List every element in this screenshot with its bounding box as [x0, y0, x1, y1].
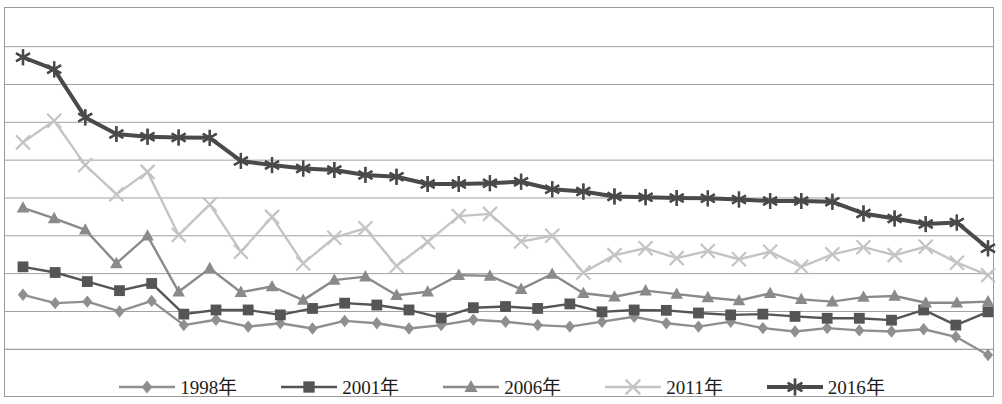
data-point-marker	[359, 270, 372, 281]
data-point-marker	[211, 305, 222, 316]
data-point-marker	[421, 235, 435, 249]
data-point-marker	[179, 319, 189, 331]
data-point-marker	[390, 259, 404, 273]
data-point-marker	[757, 309, 768, 320]
legend-marker-square-icon	[279, 376, 339, 398]
data-point-marker	[794, 260, 808, 274]
data-point-marker	[18, 261, 29, 272]
legend-item-2016年[interactable]: 2016年	[765, 374, 885, 400]
data-point-marker	[764, 287, 777, 298]
data-point-marker	[203, 197, 217, 211]
data-point-marker	[983, 306, 994, 317]
data-point-marker	[919, 240, 933, 254]
data-point-marker	[265, 210, 279, 224]
data-point-marker	[172, 285, 185, 296]
data-point-marker	[50, 267, 61, 278]
data-point-marker	[565, 320, 575, 332]
data-point-marker	[18, 289, 28, 301]
data-point-marker	[204, 262, 217, 273]
series-layer	[16, 49, 995, 361]
data-point-marker	[340, 315, 350, 327]
data-point-marker	[661, 305, 672, 316]
data-point-marker	[234, 245, 248, 259]
data-point-marker	[500, 301, 511, 312]
series-line	[23, 208, 988, 303]
data-point-marker	[546, 267, 559, 278]
data-point-marker	[266, 280, 279, 291]
data-point-marker	[951, 331, 961, 343]
legend-marker-asterisk-icon	[765, 376, 825, 398]
data-point-marker	[854, 313, 865, 324]
data-point-marker	[372, 317, 382, 329]
data-point-marker	[275, 309, 286, 320]
legend-item-1998年[interactable]: 1998年	[117, 374, 237, 400]
data-point-marker	[339, 298, 350, 309]
legend-marker-x-icon	[603, 376, 663, 398]
data-point-marker	[47, 114, 61, 128]
data-point-marker	[141, 229, 154, 240]
data-point-marker	[950, 256, 964, 270]
data-point-marker	[421, 285, 434, 296]
series-2006年	[17, 201, 995, 307]
legend-item-2011年[interactable]: 2011年	[603, 374, 722, 400]
legend-label: 2016年	[828, 378, 885, 397]
data-point-marker	[981, 268, 995, 282]
data-point-marker	[82, 276, 93, 287]
data-point-marker	[358, 221, 372, 235]
data-point-marker	[693, 308, 704, 319]
data-point-marker	[172, 228, 186, 242]
data-point-marker	[725, 309, 736, 320]
series-2016年	[16, 49, 995, 256]
data-point-marker	[758, 322, 768, 334]
data-point-marker	[211, 314, 221, 326]
data-point-marker	[629, 305, 640, 316]
legend-item-2001年[interactable]: 2001年	[279, 374, 399, 400]
data-point-marker	[16, 135, 30, 149]
data-point-marker	[296, 256, 310, 270]
data-point-marker	[576, 266, 590, 280]
data-point-marker	[17, 201, 30, 212]
data-point-marker	[500, 315, 510, 327]
data-point-marker	[886, 315, 897, 326]
legend-label: 2006年	[504, 378, 561, 397]
legend-marker-triangle-icon	[441, 376, 501, 398]
data-point-marker	[564, 299, 575, 310]
data-point-marker	[147, 295, 157, 307]
data-point-marker	[436, 313, 447, 324]
chart-page: 1998年2001年2006年2011年2016年	[0, 0, 1002, 404]
data-point-marker	[919, 323, 929, 335]
data-point-marker	[114, 305, 124, 317]
legend-item-2006年[interactable]: 2006年	[441, 374, 561, 400]
data-point-marker	[693, 320, 703, 332]
data-point-marker	[404, 305, 415, 316]
data-point-marker	[109, 187, 123, 201]
data-point-marker	[888, 248, 902, 262]
data-point-marker	[327, 231, 341, 245]
data-point-marker	[790, 325, 800, 337]
legend-label: 2011年	[666, 378, 722, 397]
legend-label: 1998年	[180, 378, 237, 397]
data-point-marker	[243, 305, 254, 316]
data-point-marker	[597, 315, 607, 327]
data-point-marker	[532, 303, 543, 314]
data-point-marker	[790, 311, 801, 322]
data-point-marker	[371, 300, 382, 311]
data-point-marker	[114, 285, 125, 296]
data-point-marker	[822, 313, 833, 324]
legend-label: 2001年	[342, 378, 399, 397]
data-point-marker	[886, 325, 896, 337]
data-point-marker	[307, 322, 317, 334]
series-line	[23, 57, 988, 248]
data-point-marker	[243, 320, 253, 332]
chart-legend: 1998年2001年2006年2011年2016年	[0, 374, 1002, 400]
data-point-marker	[533, 319, 543, 331]
data-point-marker	[82, 295, 92, 307]
data-point-marker	[468, 314, 478, 326]
data-point-marker	[950, 320, 961, 331]
data-point-marker	[597, 306, 608, 317]
data-point-marker	[50, 297, 60, 309]
data-point-marker	[146, 278, 157, 289]
data-point-marker	[639, 284, 652, 295]
data-point-marker	[983, 349, 993, 361]
data-point-marker	[141, 165, 155, 179]
